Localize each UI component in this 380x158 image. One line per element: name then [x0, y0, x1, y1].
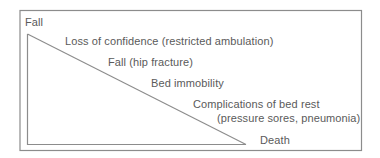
step-fall-hip-fracture: Fall (hip fracture)	[108, 56, 193, 69]
fall-cascade-diagram: Fall Loss of confidence (restricted ambu…	[0, 0, 380, 158]
end-label-death: Death	[260, 134, 290, 147]
step-complications-detail: (pressure sores, pneumonia)	[217, 112, 360, 125]
step-bed-immobility: Bed immobility	[151, 77, 224, 90]
step-complications-of-bed-rest: Complications of bed rest	[193, 98, 320, 111]
step-loss-of-confidence: Loss of confidence (restricted ambulatio…	[65, 35, 273, 48]
top-label-fall: Fall	[25, 16, 43, 29]
